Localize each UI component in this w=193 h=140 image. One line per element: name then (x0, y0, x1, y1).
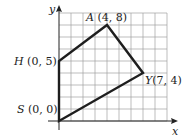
x-axis-arrow-icon (171, 118, 178, 124)
vertex-label-y: Y(7, 4) (145, 74, 182, 87)
coordinate-plane: x y A (4, 8) H (0, 5) Y(7, 4) S (0, 0) (0, 0, 193, 140)
grid (59, 13, 167, 121)
y-axis-label: y (48, 3, 56, 16)
axes (48, 8, 175, 130)
x-axis-label: x (172, 125, 179, 138)
vertex-label-a: A (4, 8) (85, 11, 127, 24)
vertex-label-s: S (0, 0) (17, 103, 58, 116)
y-axis-arrow-icon (56, 5, 62, 12)
vertex-label-h: H (0, 5) (13, 55, 57, 68)
